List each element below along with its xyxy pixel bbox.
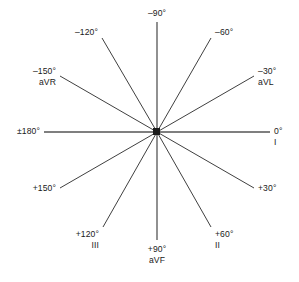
axis-degree-text-minus-90: –90° <box>117 8 197 19</box>
axis-lead-text-minus-30-avl: aVL <box>258 77 276 88</box>
axis-line-minus-120 <box>102 38 157 132</box>
axis-degree-text-minus-30-avl: –30° <box>258 66 276 77</box>
axis-label-plus-150: +150° <box>0 183 56 194</box>
axis-label-minus-60: –60° <box>215 27 233 38</box>
axis-label-minus-30-avl: –30°aVL <box>258 66 276 87</box>
axis-degree-text-plus-90-avf: +90° <box>117 244 197 255</box>
axis-label-plus-30: +30° <box>258 183 276 194</box>
axis-label-plus-minus-180: ±180° <box>0 126 40 137</box>
axis-degree-text-plus-120-iii: +120° <box>19 229 99 240</box>
axis-lead-text-plus-90-avf: aVF <box>117 255 197 266</box>
axis-degree-text-zero-i: 0° <box>274 126 282 137</box>
axis-label-plus-120-iii: +120°III <box>19 229 99 250</box>
axis-line-plus-30 <box>157 132 254 188</box>
axis-line-minus-150-avr <box>60 76 157 132</box>
axis-lead-text-plus-60-ii: II <box>215 240 233 251</box>
axis-line-plus-60-ii <box>157 132 211 227</box>
axis-degree-text-plus-60-ii: +60° <box>215 229 233 240</box>
axis-lead-text-zero-i: I <box>274 137 282 148</box>
axis-degree-text-minus-150-avr: –150° <box>0 66 56 77</box>
axis-lead-text-plus-120-iii: III <box>19 240 99 251</box>
axis-line-minus-30-avl <box>157 76 254 132</box>
axis-degree-text-plus-150: +150° <box>0 183 56 194</box>
axis-degree-text-plus-30: +30° <box>258 183 276 194</box>
axis-line-minus-60 <box>157 38 211 132</box>
origin-dot <box>153 128 160 135</box>
axis-line-plus-150 <box>60 132 157 188</box>
axis-label-plus-60-ii: +60°II <box>215 229 233 250</box>
axis-label-zero-i: 0°I <box>274 126 282 147</box>
axis-label-minus-90: –90° <box>117 8 197 19</box>
axis-degree-text-minus-120: –120° <box>18 27 98 38</box>
axis-label-minus-150-avr: –150°aVR <box>0 66 56 87</box>
axis-line-plus-120-iii <box>103 132 157 227</box>
axis-degree-text-minus-60: –60° <box>215 27 233 38</box>
axis-label-minus-120: –120° <box>18 27 98 38</box>
hexaxial-reference-diagram: –90°–120°–150°aVR±180°+150°+120°III+90°a… <box>0 0 299 282</box>
axis-lead-text-minus-150-avr: aVR <box>0 77 56 88</box>
axis-degree-text-plus-minus-180: ±180° <box>0 126 40 137</box>
axis-label-plus-90-avf: +90°aVF <box>117 244 197 265</box>
